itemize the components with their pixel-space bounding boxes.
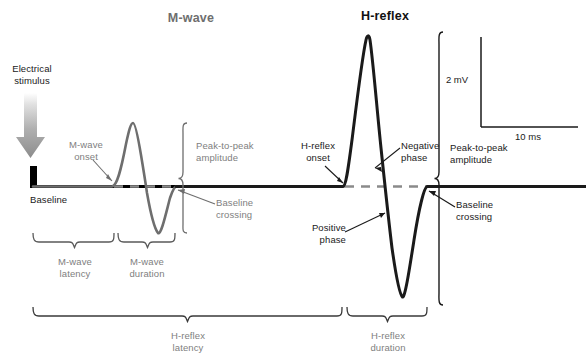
- brace-h-reflex-duration: [347, 307, 427, 322]
- label-m-wave-onset: M-wave onset: [55, 139, 117, 162]
- title-h-reflex: H-reflex: [330, 9, 440, 23]
- brace-m-wave-peak-to-peak: [179, 123, 188, 233]
- h-reflex-trace: [176, 36, 586, 297]
- brace-h-reflex-latency: [33, 307, 342, 322]
- brace-m-wave-duration: [118, 233, 175, 248]
- brace-h-reflex-peak-to-peak: [435, 32, 444, 305]
- scale-bar: [481, 37, 578, 127]
- baseline-label: Baseline: [30, 194, 67, 206]
- label-m-wave-baseline-crossing: Baseline crossing: [216, 197, 286, 220]
- label-h-reflex-baseline-crossing: Baseline crossing: [456, 199, 526, 222]
- stimulus-artifact-bar: [30, 166, 37, 188]
- label-m-wave-latency: M-wave latency: [44, 256, 106, 279]
- label-h-reflex-duration: H-reflex duration: [357, 330, 419, 353]
- leader-positive-phase: [345, 213, 385, 232]
- stimulus-label: Electrical stimulus: [2, 63, 62, 86]
- label-m-wave-duration: M-wave duration: [116, 256, 178, 279]
- brace-m-wave-latency: [33, 233, 114, 248]
- waveform-vector-canvas: [0, 0, 586, 357]
- scale-bar-time-label: 10 ms: [505, 131, 551, 142]
- down-arrow-gradient-icon: [16, 93, 45, 158]
- label-h-reflex-latency: H-reflex latency: [157, 330, 219, 353]
- label-h-reflex-onset: H-reflex onset: [288, 140, 348, 163]
- label-h-reflex-peak-to-peak: Peak-to-peak amplitude: [450, 142, 540, 165]
- title-m-wave: M-wave: [136, 11, 246, 25]
- label-m-wave-peak-to-peak: Peak-to-peak amplitude: [196, 140, 282, 163]
- emg-diagram-figure: M-wave H-reflex Electrical stimulus Base…: [0, 0, 586, 357]
- label-positive-phase: Positive phase: [294, 222, 346, 245]
- scale-bar-amplitude-label: 2 mV: [437, 74, 477, 85]
- leader-negative-phase: [375, 148, 400, 168]
- arrowhead-m-wave-baseline-crossing: [178, 189, 185, 194]
